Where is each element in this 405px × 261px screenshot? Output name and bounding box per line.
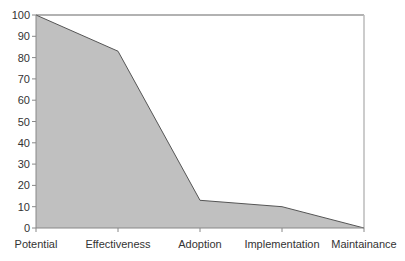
y-tick-label: 100 (12, 9, 30, 21)
y-tick-label: 30 (18, 158, 30, 170)
y-tick-label: 10 (18, 201, 30, 213)
area-chart: 0102030405060708090100 PotentialEffectiv… (0, 0, 405, 261)
y-tick-label: 0 (24, 222, 30, 234)
y-tick-label: 40 (18, 137, 30, 149)
y-tick-label: 60 (18, 94, 30, 106)
x-axis: PotentialEffectivenessAdoptionImplementa… (15, 228, 397, 250)
y-tick-label: 20 (18, 179, 30, 191)
y-tick-label: 90 (18, 30, 30, 42)
x-tick-label: Maintainance (331, 238, 396, 250)
y-tick-label: 50 (18, 116, 30, 128)
y-tick-label: 80 (18, 52, 30, 64)
area-fill (36, 15, 364, 228)
area-series (36, 15, 364, 228)
y-axis: 0102030405060708090100 (12, 9, 36, 234)
x-tick-label: Implementation (244, 238, 319, 250)
y-tick-label: 70 (18, 73, 30, 85)
x-tick-label: Effectiveness (85, 238, 151, 250)
x-tick-label: Potential (15, 238, 58, 250)
x-tick-label: Adoption (178, 238, 221, 250)
